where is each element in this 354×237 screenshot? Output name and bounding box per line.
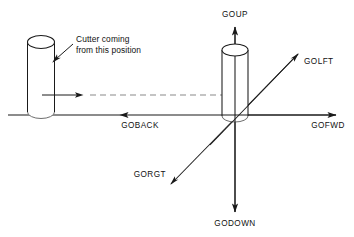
axis-label-gorgt: GORGT xyxy=(134,170,166,179)
axis-label-gofwd: GOFWD xyxy=(311,121,345,130)
cutter-callout-leader xyxy=(52,44,73,63)
axis-group xyxy=(8,27,337,213)
cutter-travel-path xyxy=(42,92,236,98)
cutter-origin-position-cylinder xyxy=(210,27,336,212)
axis-label-goup: GOUP xyxy=(222,10,248,19)
cylinder-left-top-ellipse xyxy=(28,36,55,49)
diagram-canvas: GOUP GODOWN GOFWD GOBACK GOLFT GORGT Cut… xyxy=(0,0,354,237)
axis-label-golft: GOLFT xyxy=(304,57,334,66)
callout-line-1: Cutter coming xyxy=(76,34,130,44)
callout-line-2: from this position xyxy=(76,45,141,55)
direction-axes-diagram: GOUP GODOWN GOFWD GOBACK GOLFT GORGT Cut… xyxy=(0,0,354,237)
cylinder-left-body xyxy=(28,42,55,118)
callout-leader-line xyxy=(56,44,73,59)
label-group: GOUP GODOWN GOFWD GOBACK GOLFT GORGT Cut… xyxy=(76,10,345,228)
cutter-start-position-cylinder xyxy=(28,36,55,119)
cylinder-right-top-ellipse xyxy=(222,44,248,56)
axis-label-godown: GODOWN xyxy=(214,219,255,228)
axis-label-goback: GOBACK xyxy=(121,121,159,130)
